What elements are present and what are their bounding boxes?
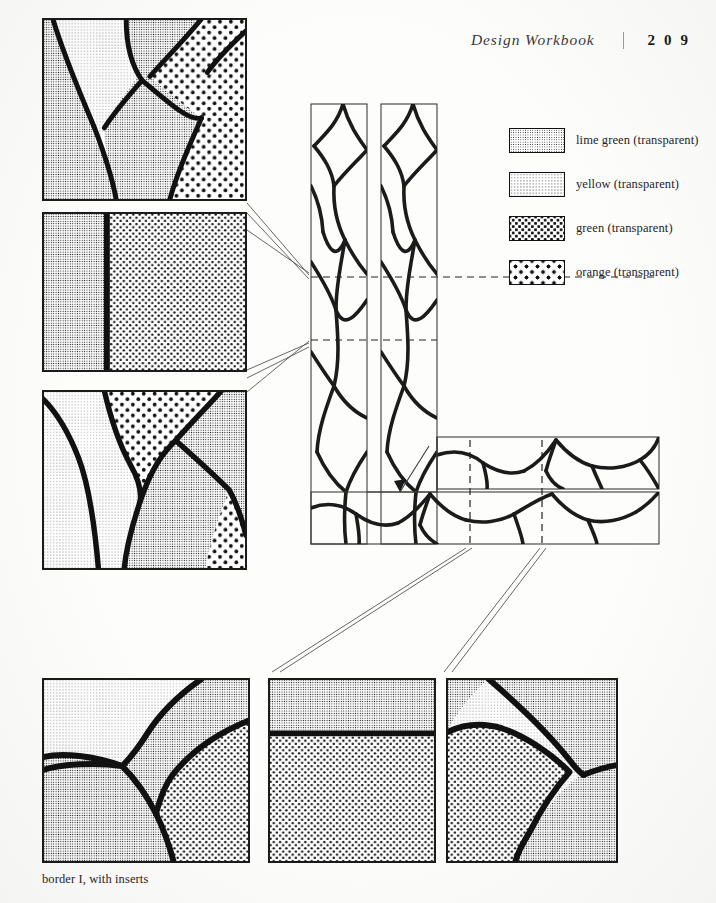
figure-caption: border I, with inserts [42,872,148,887]
legend-item-green: green (transparent) [509,206,698,250]
legend-item-lime-green: lime green (transparent) [509,118,698,162]
detail-panel-1 [42,18,247,201]
detail-panel-2 [42,212,247,372]
legend-label-lime-green: lime green (transparent) [576,133,698,148]
detail-panel-4 [42,678,250,863]
legend-swatch-orange [509,260,565,285]
detail-panel-5 [268,678,436,863]
legend-swatch-yellow [509,172,565,197]
legend-label-green: green (transparent) [576,221,673,236]
assembly-arrow [394,446,429,492]
legend: lime green (transparent) yellow (transpa… [509,118,698,294]
legend-label-orange: orange (transparent) [576,265,679,280]
legend-swatch-green [509,216,565,241]
legend-item-yellow: yellow (transparent) [509,162,698,206]
legend-swatch-lime-green [509,128,565,153]
detail-panel-3 [42,390,247,570]
page-canvas: Design Workbook 2 0 9 .lead { fill:none;… [0,0,716,903]
detail-panel-6 [446,678,618,863]
legend-label-yellow: yellow (transparent) [576,177,679,192]
legend-item-orange: orange (transparent) [509,250,698,294]
